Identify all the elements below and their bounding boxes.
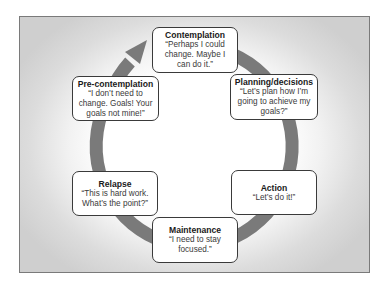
stage-title: Action: [261, 183, 288, 193]
stage-title: Relapse: [99, 179, 132, 189]
stage-action: Action “Let’s do it!”: [231, 170, 317, 215]
stage-quote: “This is hard work. What’s the point?”: [74, 189, 156, 209]
stage-relapse: Relapse “This is hard work. What’s the p…: [72, 171, 158, 216]
stage-title: Planning/decisions: [235, 77, 313, 87]
stage-quote: “Let’s do it!”: [253, 193, 296, 203]
stage-title: Contemplation: [165, 30, 225, 40]
stage-precontemplation: Pre-contemplation “I don’t need to chang…: [72, 76, 159, 121]
arrowhead-icon: [125, 40, 147, 64]
stage-planning: Planning/decisions “Let’s plan how I’m g…: [230, 74, 318, 120]
stage-title: Maintenance: [169, 225, 221, 235]
stage-title: Pre-contemplation: [78, 79, 153, 89]
stage-quote: “I need to stay focused.”: [164, 235, 226, 255]
stage-quote: “I don’t need to change. Goals! Your goa…: [75, 89, 157, 119]
stage-contemplation: Contemplation “Perhaps I could change. M…: [152, 27, 238, 73]
stage-quote: “Let’s plan how I’m going to achieve my …: [233, 87, 315, 117]
stage-quote: “Perhaps I could change. Maybe I can do …: [162, 40, 228, 70]
stage-maintenance: Maintenance “I need to stay focused.”: [152, 217, 238, 263]
